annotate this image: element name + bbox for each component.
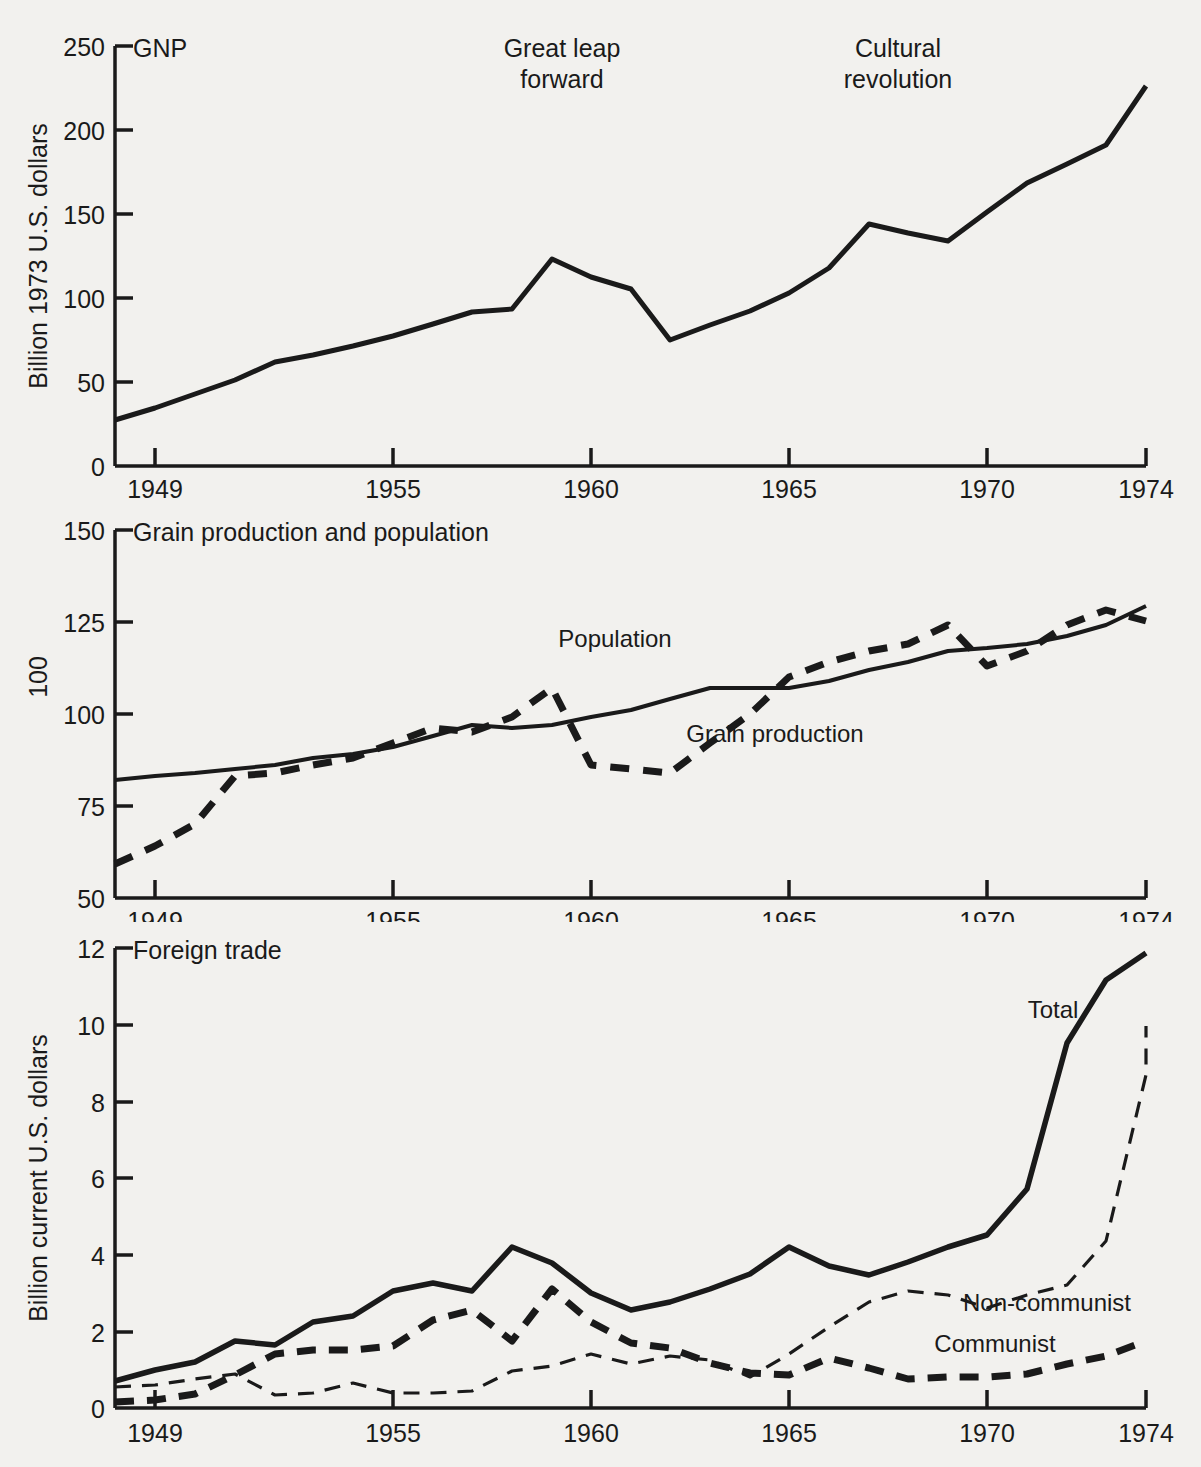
gnp-xtick-1949: 1949: [127, 475, 183, 503]
grain-xtick-1970: 1970: [959, 907, 1015, 922]
annotation-great-leap-line1: Great leap: [504, 34, 621, 62]
grain-xtick-1965: 1965: [761, 907, 817, 922]
grain-ytick-50: 50: [77, 885, 105, 913]
multi-panel-figure: 250 200 150 100 50 0 1949 1955 1960 1965…: [0, 0, 1201, 1467]
gnp-y-axis-title: Billion 1973 U.S. dollars: [24, 123, 52, 388]
grain-chart: 150 125 100 75 50 1949 1955 1960 1965 19…: [0, 512, 1201, 922]
grain-x-ticks: [155, 880, 1146, 898]
grain-ytick-75: 75: [77, 793, 105, 821]
trade-xtick-1974: 1974: [1118, 1419, 1174, 1447]
grain-label-grain-production: Grain production: [686, 720, 863, 747]
grain-ytick-150: 150: [63, 517, 105, 545]
annotation-cultural-rev-line1: Cultural: [855, 34, 941, 62]
grain-y-axis-title: 100: [24, 656, 52, 698]
grain-ytick-125: 125: [63, 609, 105, 637]
gnp-panel-title: GNP: [133, 34, 187, 62]
gnp-xtick-1955: 1955: [365, 475, 421, 503]
trade-xtick-1960: 1960: [563, 1419, 619, 1447]
gnp-ytick-150: 150: [63, 201, 105, 229]
panel-trade: 12 10 8 6 4 2 0 1949 1955 1960 1965 1970…: [0, 922, 1201, 1467]
trade-label-non-communist: Non-communist: [963, 1289, 1131, 1316]
trade-label-total: Total: [1028, 996, 1079, 1023]
trade-ytick-6: 6: [91, 1165, 105, 1193]
trade-ytick-10: 10: [77, 1012, 105, 1040]
gnp-chart: 250 200 150 100 50 0 1949 1955 1960 1965…: [0, 0, 1201, 512]
gnp-ytick-0: 0: [91, 453, 105, 481]
gnp-ytick-200: 200: [63, 117, 105, 145]
trade-y-ticks: [115, 948, 133, 1332]
trade-chart: 12 10 8 6 4 2 0 1949 1955 1960 1965 1970…: [0, 922, 1201, 1467]
grain-label-population: Population: [558, 625, 671, 652]
annotation-great-leap-line2: forward: [520, 65, 603, 93]
gnp-series-line: [115, 86, 1146, 420]
trade-ytick-0: 0: [91, 1395, 105, 1423]
trade-xtick-1965: 1965: [761, 1419, 817, 1447]
trade-panel-title: Foreign trade: [133, 936, 282, 964]
trade-y-axis-title: Billion current U.S. dollars: [24, 1034, 52, 1322]
trade-label-communist: Communist: [934, 1330, 1056, 1357]
grain-xtick-1960: 1960: [563, 907, 619, 922]
trade-ytick-8: 8: [91, 1089, 105, 1117]
gnp-xtick-1970: 1970: [959, 475, 1015, 503]
grain-panel-title: Grain production and population: [133, 518, 489, 546]
gnp-x-ticks: [155, 448, 1146, 466]
trade-ytick-12: 12: [77, 935, 105, 963]
gnp-xtick-1974: 1974: [1118, 475, 1174, 503]
grain-xtick-1955: 1955: [365, 907, 421, 922]
gnp-ytick-250: 250: [63, 33, 105, 61]
gnp-xtick-1965: 1965: [761, 475, 817, 503]
trade-ytick-4: 4: [91, 1242, 105, 1270]
grain-ytick-100: 100: [63, 701, 105, 729]
trade-xtick-1949: 1949: [127, 1419, 183, 1447]
gnp-ytick-100: 100: [63, 285, 105, 313]
gnp-y-ticks: [115, 46, 133, 382]
trade-xtick-1955: 1955: [365, 1419, 421, 1447]
trade-xtick-1970: 1970: [959, 1419, 1015, 1447]
panel-gnp: 250 200 150 100 50 0 1949 1955 1960 1965…: [0, 0, 1201, 512]
trade-total-line: [115, 953, 1146, 1381]
panel-grain: 150 125 100 75 50 1949 1955 1960 1965 19…: [0, 512, 1201, 922]
gnp-xtick-1960: 1960: [563, 475, 619, 503]
grain-xtick-1949: 1949: [127, 907, 183, 922]
grain-xtick-1974: 1974: [1118, 907, 1174, 922]
trade-ytick-2: 2: [91, 1319, 105, 1347]
grain-y-ticks: [115, 530, 133, 806]
annotation-cultural-rev-line2: revolution: [844, 65, 952, 93]
gnp-ytick-50: 50: [77, 369, 105, 397]
